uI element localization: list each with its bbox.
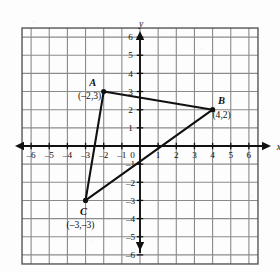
- y-tick-label: 5: [128, 50, 133, 60]
- vertex-label-b: B: [217, 95, 225, 106]
- y-tick-label: –3: [125, 196, 136, 206]
- x-tick-label: –2: [98, 150, 109, 160]
- y-tick-label: 1: [128, 123, 133, 133]
- vertex-label-c: C: [80, 206, 88, 217]
- vertex-point-a: [101, 89, 106, 94]
- x-tick-label: –1: [116, 150, 127, 160]
- x-tick-label: 6: [247, 150, 252, 160]
- x-tick-label: 1: [156, 150, 161, 160]
- x-tick-label: –6: [26, 150, 37, 160]
- x-tick-label: 5: [228, 150, 233, 160]
- x-tick-label: 4: [210, 150, 215, 160]
- vertex-coordinates-a: (–2,3): [78, 90, 101, 102]
- x-tick-label: 3: [192, 150, 197, 160]
- y-tick-label: 2: [128, 105, 133, 115]
- x-tick-label: 2: [174, 150, 179, 160]
- y-tick-label: –4: [125, 214, 136, 224]
- y-tick-label: 4: [128, 69, 133, 79]
- vertex-coordinates-b: (4,2): [212, 109, 230, 121]
- x-tick-label: –3: [80, 150, 91, 160]
- origin-label: 0: [130, 150, 135, 160]
- graph-svg: –6–5–4–3–2–10123456–6–5–4–3–2–1123456 xy…: [0, 0, 280, 273]
- vertex-coordinates-c: (–3,–3): [67, 219, 95, 231]
- x-axis-label: x: [276, 142, 280, 152]
- x-tick-label: –5: [44, 150, 55, 160]
- y-axis-label: y: [138, 19, 144, 29]
- vertex-point-c: [83, 198, 88, 203]
- y-tick-label: –2: [125, 178, 136, 188]
- y-tick-label: 6: [128, 32, 133, 42]
- y-tick-label: –5: [125, 232, 136, 242]
- coordinate-plane-figure: –6–5–4–3–2–10123456–6–5–4–3–2–1123456 xy…: [0, 0, 280, 273]
- x-tick-label: –4: [62, 150, 73, 160]
- vertex-label-a: A: [88, 77, 96, 88]
- y-tick-label: –6: [125, 250, 136, 260]
